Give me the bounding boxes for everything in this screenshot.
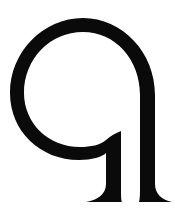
letter-q-logo-icon bbox=[0, 0, 175, 209]
bowl-ring bbox=[10, 18, 155, 160]
right-stem bbox=[139, 95, 172, 202]
